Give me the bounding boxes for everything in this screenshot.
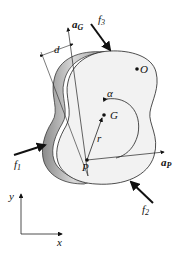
- label-alpha: α: [107, 87, 113, 99]
- f1-force-arrow: [14, 145, 45, 155]
- label-P: P: [81, 161, 89, 173]
- label-d: d: [54, 43, 60, 55]
- label-f2: f2: [142, 203, 149, 217]
- point-G: [102, 113, 106, 117]
- label-f3: f3: [98, 13, 105, 27]
- point-O: [135, 67, 139, 71]
- label-r: r: [97, 132, 102, 144]
- f3-force-arrow: [91, 24, 110, 50]
- label-y-axis: y: [8, 190, 14, 202]
- label-x-axis: x: [56, 236, 62, 248]
- f2-force-arrow: [131, 182, 153, 203]
- label-G: G: [110, 109, 118, 121]
- label-aG: aG: [72, 18, 84, 32]
- rigid-body-diagram: d aG f3 O α G r P aP f1 f2 y x: [0, 0, 183, 257]
- label-O: O: [140, 63, 148, 75]
- label-f1: f1: [14, 158, 21, 172]
- label-aP: aP: [161, 156, 172, 170]
